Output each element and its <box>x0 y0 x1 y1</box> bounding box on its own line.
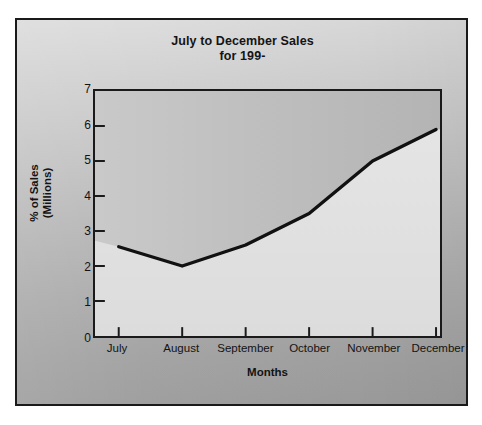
chart-title-line1: July to December Sales <box>171 34 314 48</box>
chart-figure-frame: July to December Sales for 199- % of Sal… <box>15 18 468 406</box>
x-axis-tick-label: October <box>289 342 330 354</box>
x-axis-tick-label: November <box>347 342 400 354</box>
page-canvas: July to December Sales for 199- % of Sal… <box>0 0 482 425</box>
chart-title: July to December Sales for 199- <box>17 34 468 63</box>
y-axis-tick-labels: 01234567 <box>57 80 91 348</box>
y-axis-tick-label: 4 <box>57 190 91 202</box>
y-axis-tick-label: 1 <box>57 296 91 308</box>
x-axis-tick-label: December <box>411 342 464 354</box>
y-axis-title: % of Sales (Millions) <box>28 133 54 253</box>
y-axis-tick-label: 7 <box>57 83 91 95</box>
chart-title-line2: for 199- <box>17 49 468 64</box>
x-axis-tick-label: September <box>217 342 273 354</box>
y-axis-title-main: % of Sales <box>28 164 40 222</box>
x-axis-tick-label: August <box>163 342 199 354</box>
x-axis-tick-label: July <box>107 342 127 354</box>
y-axis-tick-label: 3 <box>57 225 91 237</box>
x-axis-tick-labels: JulyAugustSeptemberOctoberNovemberDecemb… <box>93 342 442 360</box>
plot-area <box>93 89 442 338</box>
y-axis-tick-label: 0 <box>57 332 91 344</box>
y-axis-tick-label: 2 <box>57 261 91 273</box>
y-axis-tick-label: 6 <box>57 119 91 131</box>
y-axis-title-sub: (Millions) <box>41 133 54 253</box>
line-chart-svg <box>95 91 440 336</box>
y-axis-tick-label: 5 <box>57 154 91 166</box>
x-axis-title: Months <box>93 366 442 378</box>
